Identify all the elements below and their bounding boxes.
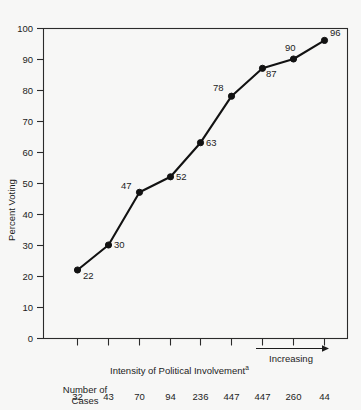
case-count: 260 xyxy=(286,391,302,402)
ytick-label-100: 100 xyxy=(17,23,33,34)
case-count: 447 xyxy=(255,391,271,402)
case-count: 447 xyxy=(224,391,240,402)
case-count: 70 xyxy=(134,391,145,402)
ytick-label-0: 0 xyxy=(28,333,33,344)
x-axis-ticks xyxy=(78,339,325,346)
case-count: 44 xyxy=(319,391,330,402)
data-point xyxy=(228,93,234,99)
data-point-label: 22 xyxy=(83,270,94,281)
case-count: 43 xyxy=(103,391,114,402)
ytick-label-20: 20 xyxy=(22,271,33,282)
data-point-label: 63 xyxy=(206,137,217,148)
y-axis-ticks xyxy=(37,29,44,339)
ytick-label-70: 70 xyxy=(22,116,33,127)
data-point xyxy=(259,65,265,71)
number-of-cases-label-line1: Number of xyxy=(63,384,108,395)
plot-frame xyxy=(44,29,348,339)
line-chart: 100 90 80 70 60 50 40 30 20 10 0 Percent… xyxy=(0,0,361,410)
increasing-label: Increasing xyxy=(269,353,313,364)
data-point-label: 52 xyxy=(176,171,187,182)
x-axis-title: Intensity of Political Involvementa xyxy=(110,364,249,376)
ytick-label-60: 60 xyxy=(22,147,33,158)
ytick-label-80: 80 xyxy=(22,85,33,96)
y-axis-title: Percent Voting xyxy=(6,179,17,241)
case-count: 32 xyxy=(72,391,83,402)
data-point xyxy=(136,189,142,195)
ytick-label-40: 40 xyxy=(22,209,33,220)
ytick-label-90: 90 xyxy=(22,54,33,65)
data-point xyxy=(197,140,203,146)
increasing-arrow xyxy=(256,345,329,351)
x-axis-title-superscript: a xyxy=(245,364,249,371)
figure-container: 100 90 80 70 60 50 40 30 20 10 0 Percent… xyxy=(0,0,361,410)
ytick-label-50: 50 xyxy=(22,178,33,189)
case-count: 94 xyxy=(165,391,176,402)
case-count: 236 xyxy=(193,391,209,402)
data-point xyxy=(321,37,327,43)
data-point-label: 90 xyxy=(285,42,296,53)
data-point xyxy=(167,174,173,180)
data-point xyxy=(290,56,296,62)
data-point-label: 78 xyxy=(213,82,224,93)
ytick-label-30: 30 xyxy=(22,240,33,251)
x-axis-title-text: Intensity of Political Involvement xyxy=(110,365,246,376)
data-point-label: 30 xyxy=(114,239,125,250)
data-point-label: 87 xyxy=(266,68,277,79)
data-point xyxy=(105,242,111,248)
data-point-label: 96 xyxy=(330,27,341,38)
data-line xyxy=(78,40,325,270)
data-point xyxy=(74,267,80,273)
data-point-label: 47 xyxy=(121,180,132,191)
ytick-label-10: 10 xyxy=(22,302,33,313)
arrowhead-icon xyxy=(322,345,329,351)
